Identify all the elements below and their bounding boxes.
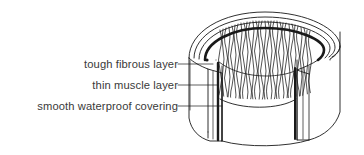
diagram-page: tough fibrous layer thin muscle layer sm… bbox=[0, 0, 364, 155]
tube-cutaway-illustration bbox=[0, 0, 364, 155]
cylinder-outer-body bbox=[189, 32, 340, 146]
leader-endpoint-dot bbox=[205, 58, 208, 61]
